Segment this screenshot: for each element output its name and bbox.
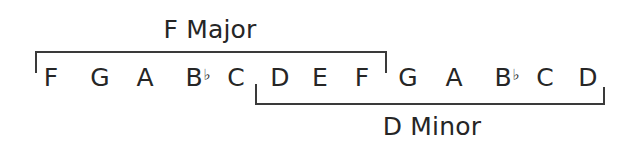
note-b-flat: B♭ [494,65,519,90]
note-letter: F [355,63,369,92]
note-letter: C [227,63,244,92]
note-f: F [355,65,369,90]
note-letter: D [270,63,289,92]
note-d: D [270,65,289,90]
note-letter: D [578,63,597,92]
note-letter: C [536,63,553,92]
d-minor-label: D Minor [383,114,482,139]
f-major-label: F Major [163,17,256,42]
note-a: A [445,65,462,90]
flat-icon: ♭ [513,66,520,84]
note-c: C [227,65,244,90]
note-f: F [44,65,58,90]
note-letter: G [90,63,109,92]
note-letter: F [44,63,58,92]
note-g: G [398,65,417,90]
f-major-bracket-top [35,51,387,53]
d-minor-bracket-right [603,87,605,105]
f-major-bracket-right [385,51,387,73]
d-minor-bracket-left [255,84,257,105]
note-letter: A [445,63,462,92]
note-letter: E [312,63,328,92]
f-major-bracket-left [35,51,37,73]
note-letter: A [136,63,153,92]
note-b-flat: B♭ [185,65,210,90]
note-a: A [136,65,153,90]
note-letter: G [398,63,417,92]
note-e: E [312,65,328,90]
note-c: C [536,65,553,90]
flat-icon: ♭ [204,66,211,84]
note-g: G [90,65,109,90]
note-letter: B [494,63,511,92]
note-d: D [578,65,597,90]
d-minor-bracket-bottom [255,103,605,105]
note-letter: B [185,63,202,92]
